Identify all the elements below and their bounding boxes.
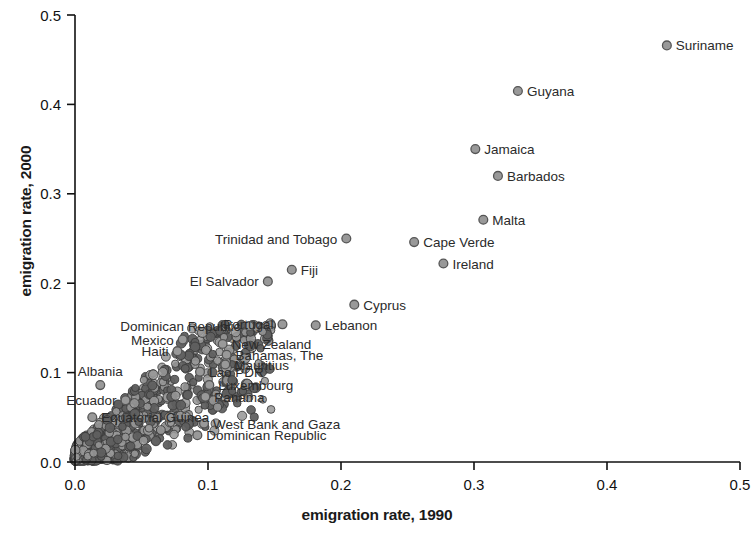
- data-point-label: Haiti: [141, 344, 168, 359]
- y-tick-label: 0.2: [40, 275, 61, 292]
- y-tick-label: 0.0: [40, 454, 61, 471]
- data-point: [218, 340, 227, 349]
- x-tick-label: 0.4: [597, 476, 618, 493]
- data-point: [513, 87, 522, 96]
- data-point: [494, 172, 503, 181]
- data-point: [88, 413, 97, 422]
- data-point-label: Panama: [214, 390, 265, 405]
- data-point-label: Dominican Republic: [206, 428, 326, 443]
- data-point: [439, 259, 448, 268]
- data-point: [121, 396, 130, 405]
- data-point: [178, 335, 187, 344]
- data-point: [342, 234, 351, 243]
- data-point-label: Lebanon: [325, 318, 378, 333]
- data-point: [193, 431, 202, 440]
- x-tick-label: 0.3: [464, 476, 485, 493]
- data-point-label: Jamaica: [484, 142, 535, 157]
- y-tick-label: 0.5: [40, 7, 61, 24]
- data-point-label: Trinidad and Tobago: [215, 232, 337, 247]
- data-point: [479, 215, 488, 224]
- data-point: [278, 320, 287, 329]
- data-point: [287, 265, 296, 274]
- plot-canvas: SurinameGuyanaJamaicaBarbadosMaltaCape V…: [0, 0, 754, 537]
- x-tick-label: 0.0: [65, 476, 86, 493]
- data-point: [350, 300, 359, 309]
- data-point-label: Fiji: [301, 263, 318, 278]
- data-point-label: Ireland: [452, 257, 493, 272]
- data-point-label: Ecuador: [66, 393, 117, 408]
- data-point-label: Guyana: [527, 84, 575, 99]
- y-tick-label: 0.3: [40, 185, 61, 202]
- data-point: [410, 238, 419, 247]
- data-point-label: Albania: [78, 364, 124, 379]
- y-tick-label: 0.4: [40, 96, 61, 113]
- x-axis-ticks: 0.00.10.20.30.40.5: [65, 462, 751, 493]
- data-point: [201, 392, 210, 401]
- data-point: [662, 41, 671, 50]
- data-point: [263, 277, 272, 286]
- data-point: [471, 145, 480, 154]
- data-point: [196, 367, 205, 376]
- data-point-label: Malta: [492, 213, 526, 228]
- data-point: [96, 381, 105, 390]
- data-point: [173, 347, 182, 356]
- data-point-label: Suriname: [676, 38, 734, 53]
- data-point-label: El Salvador: [190, 274, 260, 289]
- data-point-label: Cape Verde: [423, 235, 494, 250]
- data-point: [311, 321, 320, 330]
- y-tick-label: 0.1: [40, 364, 61, 381]
- data-point-label: Equatorial Guinea: [101, 410, 210, 425]
- x-tick-label: 0.1: [198, 476, 219, 493]
- x-tick-label: 0.2: [331, 476, 352, 493]
- scatter-plot-figure: emigration rate, 2000 emigration rate, 1…: [0, 0, 754, 537]
- data-point: [205, 381, 214, 390]
- x-tick-label: 0.5: [730, 476, 751, 493]
- data-point-label: Barbados: [507, 169, 565, 184]
- data-point: [222, 350, 231, 359]
- data-point-label: Cyprus: [363, 298, 406, 313]
